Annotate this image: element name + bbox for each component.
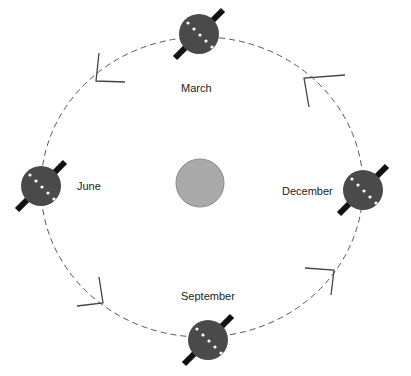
arrow-icon (304, 75, 345, 107)
label-june: June (77, 180, 101, 192)
sun-icon (176, 159, 224, 207)
orbit-diagram (0, 0, 411, 376)
label-december: December (282, 185, 333, 197)
arrow-icon (96, 53, 125, 82)
earth-december (339, 166, 387, 214)
earth-march (175, 10, 223, 58)
earth-september (184, 316, 232, 364)
label-march: March (181, 82, 212, 94)
arrow-icon (305, 268, 334, 295)
earth-june (17, 162, 65, 210)
label-september: September (181, 290, 235, 302)
arrow-icon (77, 277, 103, 306)
